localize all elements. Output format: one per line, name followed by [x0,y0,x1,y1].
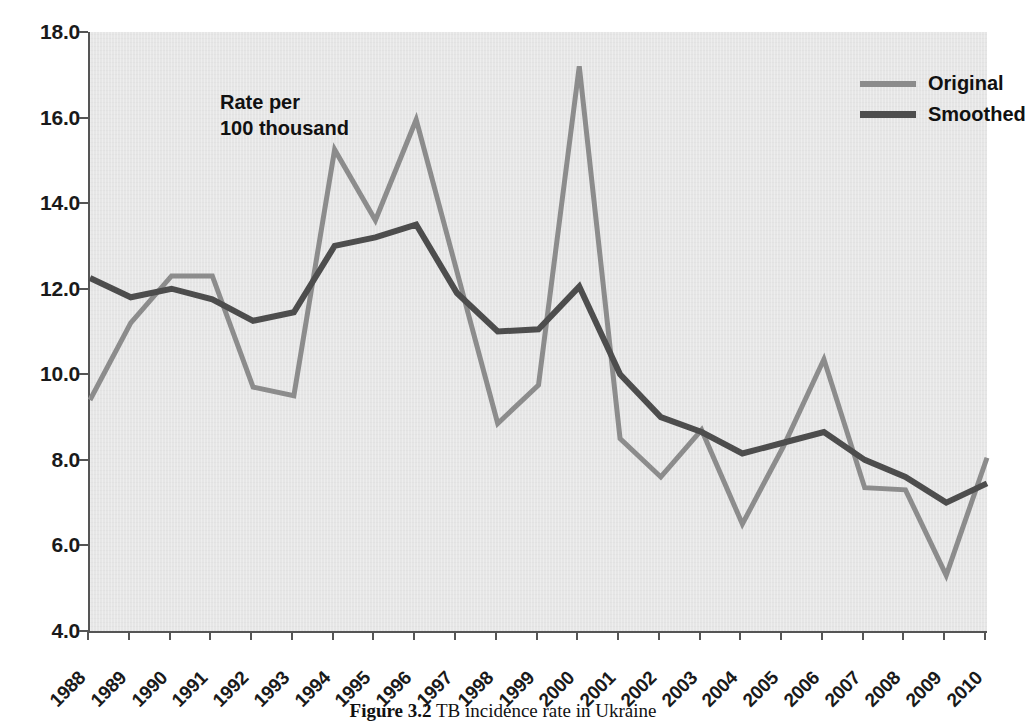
y-axis-tick [79,459,88,461]
y-axis-tick-label: 4.0 [8,619,80,643]
x-axis-tick [413,631,415,640]
x-axis-tick [862,631,864,640]
legend-item-original: Original [860,68,1026,99]
x-axis-tick [209,631,211,640]
chart-legend: Original Smoothed [860,68,1026,130]
legend-label-smoothed: Smoothed [928,103,1026,126]
x-axis-tick [739,631,741,640]
x-axis-tick [495,631,497,640]
x-axis-tick [902,631,904,640]
x-axis-tick [372,631,374,640]
plot-area: Rate per 100 thousand Original Smoothed [88,32,987,633]
x-axis-tick [250,631,252,640]
y-axis-tick-label: 12.0 [8,277,80,301]
x-axis-tick [576,631,578,640]
figure-caption-text: TB incidence rate in Ukraine [436,700,657,721]
x-axis-tick [291,631,293,640]
y-axis-tick [79,544,88,546]
y-axis-tick [79,202,88,204]
x-axis-tick [87,631,89,640]
figure-caption-number: Figure 3.2 [350,700,432,721]
y-axis-tick-label: 16.0 [8,106,80,130]
y-axis-tick-label: 18.0 [8,20,80,44]
y-axis: 18.0 16.0 14.0 12.0 10.0 8.0 6.0 4.0 [0,32,80,631]
x-axis-tick [984,631,986,640]
legend-label-original: Original [928,72,1004,95]
figure-caption: Figure 3.2 TB incidence rate in Ukraine [0,700,1006,721]
x-axis-tick [821,631,823,640]
x-axis-tick [699,631,701,640]
x-axis-tick [780,631,782,640]
legend-swatch-original [860,81,916,87]
x-axis-tick [169,631,171,640]
x-axis-tick [943,631,945,640]
y-axis-tick-label: 10.0 [8,362,80,386]
axis-unit-annotation: Rate per 100 thousand [220,90,349,141]
legend-swatch-smoothed [860,111,916,118]
x-axis-tick [617,631,619,640]
y-axis-tick-label: 14.0 [8,191,80,215]
y-axis-tick [79,288,88,290]
y-axis-tick-label: 6.0 [8,533,80,557]
legend-item-smoothed: Smoothed [860,99,1026,130]
y-axis-tick [79,373,88,375]
x-axis-tick [128,631,130,640]
y-axis-tick [79,117,88,119]
x-axis-tick [536,631,538,640]
y-axis-tick-label: 8.0 [8,448,80,472]
x-axis-tick [658,631,660,640]
series-line-smoothed [90,225,987,503]
series-line-original [90,66,987,575]
x-axis-tick [332,631,334,640]
x-axis-tick [454,631,456,640]
y-axis-tick [79,31,88,33]
